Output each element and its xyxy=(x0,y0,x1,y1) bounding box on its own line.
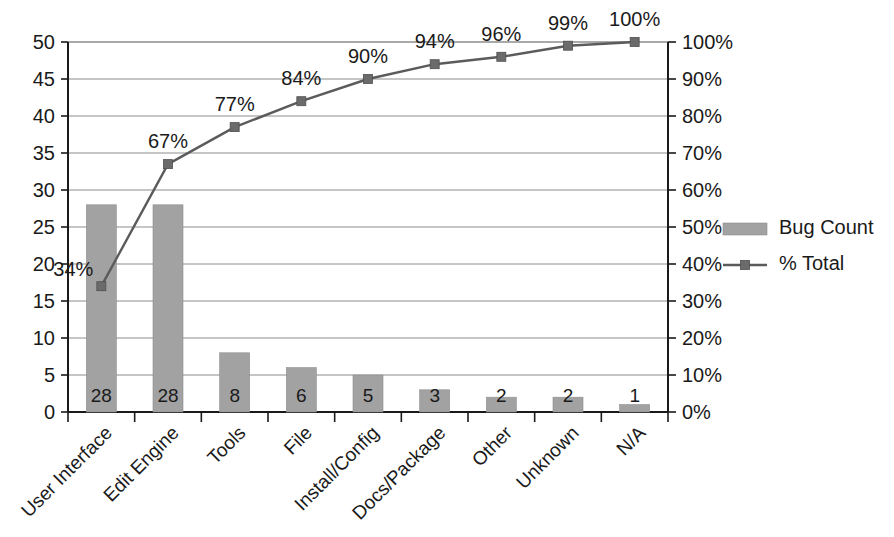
right-axis-tick-label: 60% xyxy=(682,179,722,201)
percent-label: 94% xyxy=(415,30,455,52)
bar xyxy=(153,205,183,412)
left-axis-tick-label: 40 xyxy=(33,105,55,127)
left-axis-tick-label: 0 xyxy=(44,401,55,423)
right-axis-tick-label: 10% xyxy=(682,364,722,386)
legend-label: % Total xyxy=(779,252,844,274)
left-axis-tick-label: 50 xyxy=(33,31,55,53)
percent-label: 99% xyxy=(548,12,588,34)
line-marker xyxy=(230,123,239,132)
left-axis-tick-label: 20 xyxy=(33,253,55,275)
percent-label: 34% xyxy=(53,258,93,280)
percent-label: 90% xyxy=(348,45,388,67)
legend-marker-icon xyxy=(741,261,750,270)
right-axis-tick-label: 50% xyxy=(682,216,722,238)
percent-label: 96% xyxy=(481,23,521,45)
bar-value-label: 1 xyxy=(629,385,640,406)
legend-label: Bug Count xyxy=(779,216,874,238)
right-axis-tick-label: 80% xyxy=(682,105,722,127)
right-axis-tick-label: 90% xyxy=(682,68,722,90)
bar-value-label: 3 xyxy=(429,385,440,406)
chart-canvas: 05101520253035404550 0%10%20%30%40%50%60… xyxy=(0,0,894,537)
line-marker xyxy=(497,52,506,61)
bar xyxy=(86,205,116,412)
right-axis-tick-label: 30% xyxy=(682,290,722,312)
right-axis-tick-label: 40% xyxy=(682,253,722,275)
bar-value-label: 28 xyxy=(91,385,112,406)
legend-bar-swatch xyxy=(723,223,767,235)
bar-value-label: 5 xyxy=(363,385,374,406)
line-marker xyxy=(564,41,573,50)
left-axis-tick-label: 5 xyxy=(44,364,55,386)
right-axis-tick-label: 100% xyxy=(682,31,733,53)
percent-label: 67% xyxy=(148,130,188,152)
bar-value-label: 6 xyxy=(296,385,307,406)
left-axis-tick-label: 30 xyxy=(33,179,55,201)
left-axis-tick-label: 25 xyxy=(33,216,55,238)
bar-value-label: 28 xyxy=(157,385,178,406)
line-marker xyxy=(297,97,306,106)
bar-value-label: 8 xyxy=(229,385,240,406)
right-axis-tick-label: 0% xyxy=(682,401,711,423)
line-marker xyxy=(164,160,173,169)
left-axis-tick-label: 45 xyxy=(33,68,55,90)
percent-label: 77% xyxy=(215,93,255,115)
left-axis-tick-label: 35 xyxy=(33,142,55,164)
right-axis-tick-label: 20% xyxy=(682,327,722,349)
line-marker xyxy=(97,282,106,291)
left-axis-tick-label: 15 xyxy=(33,290,55,312)
line-marker xyxy=(364,75,373,84)
bar-value-label: 2 xyxy=(496,385,507,406)
pareto-chart: 05101520253035404550 0%10%20%30%40%50%60… xyxy=(0,0,894,537)
percent-label: 100% xyxy=(609,8,660,30)
percent-label: 84% xyxy=(281,67,321,89)
line-marker xyxy=(630,38,639,47)
line-marker xyxy=(430,60,439,69)
bar-value-label: 2 xyxy=(563,385,574,406)
left-axis-tick-label: 10 xyxy=(33,327,55,349)
right-axis-tick-label: 70% xyxy=(682,142,722,164)
